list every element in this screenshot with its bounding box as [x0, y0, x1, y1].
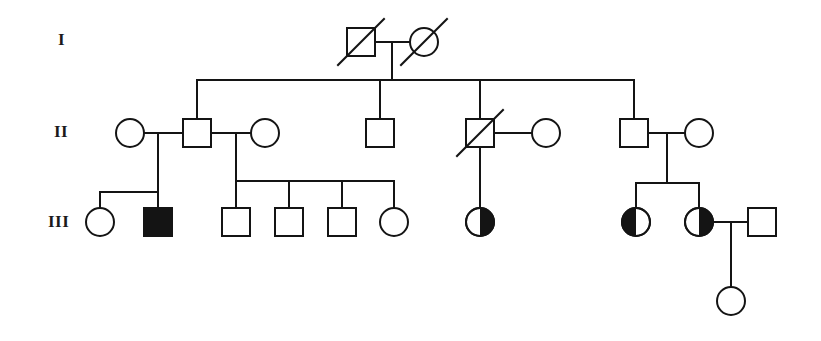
- union-union-II-d: [648, 133, 685, 183]
- pedigree-chart: IIIIII: [0, 0, 821, 341]
- individual-III-9-female-affected[interactable]: [685, 208, 713, 236]
- female-circle-II-6[interactable]: [532, 119, 560, 147]
- female-circle-II-8[interactable]: [685, 119, 713, 147]
- individual-III-1-female-unaffected[interactable]: [86, 208, 114, 236]
- individual-III-6-female-unaffected[interactable]: [380, 208, 408, 236]
- union-union-II-b: [211, 133, 251, 181]
- female-circle-III-6[interactable]: [380, 208, 408, 236]
- sibship-sibship-II-b-offspring: [236, 181, 394, 208]
- male-square-II-4[interactable]: [366, 119, 394, 147]
- gen-label-I: I: [58, 30, 65, 50]
- individual-III-8-female-affected[interactable]: [622, 208, 650, 236]
- individual-III-3-male-unaffected[interactable]: [222, 208, 250, 236]
- male-square-III-10[interactable]: [748, 208, 776, 236]
- male-square-II-2[interactable]: [183, 119, 211, 147]
- individual-III-4-male-unaffected[interactable]: [275, 208, 303, 236]
- union-union-II-a: [144, 133, 183, 192]
- male-square-III-5[interactable]: [328, 208, 356, 236]
- half-fill-half-right-III-9: [699, 208, 713, 236]
- individual-III-5-male-unaffected[interactable]: [328, 208, 356, 236]
- female-circle-II-3[interactable]: [251, 119, 279, 147]
- individual-symbols-layer: [86, 19, 776, 315]
- sibship-sibship-I-offspring: [197, 80, 634, 119]
- female-circle-II-1[interactable]: [116, 119, 144, 147]
- male-square-III-4[interactable]: [275, 208, 303, 236]
- individual-II-2-male-unaffected[interactable]: [183, 119, 211, 147]
- individual-II-3-female-unaffected[interactable]: [251, 119, 279, 147]
- gen-label-II: II: [54, 122, 68, 142]
- individual-II-8-female-unaffected[interactable]: [685, 119, 713, 147]
- individual-II-1-female-unaffected[interactable]: [116, 119, 144, 147]
- sibship-sibship-II-d-offspring: [636, 183, 699, 208]
- individual-IV-1-female-unaffected[interactable]: [717, 287, 745, 315]
- half-fill-half-left-III-8: [622, 208, 636, 236]
- individual-III-7-female-affected[interactable]: [466, 208, 494, 236]
- sibship-sibship-II-a-offspring: [100, 192, 158, 208]
- individual-II-4-male-unaffected[interactable]: [366, 119, 394, 147]
- male-square-III-3[interactable]: [222, 208, 250, 236]
- female-circle-III-1[interactable]: [86, 208, 114, 236]
- female-circle-IV-1[interactable]: [717, 287, 745, 315]
- male-square-III-2[interactable]: [144, 208, 172, 236]
- connector-lines-layer: [100, 42, 748, 287]
- half-fill-half-right-III-7: [480, 208, 494, 236]
- gen-label-III: III: [48, 212, 69, 232]
- pedigree-canvas: [0, 0, 821, 341]
- male-square-II-7[interactable]: [620, 119, 648, 147]
- individual-II-7-male-unaffected[interactable]: [620, 119, 648, 147]
- union-union-III-a: [713, 222, 748, 287]
- individual-II-6-female-unaffected[interactable]: [532, 119, 560, 147]
- individual-III-10-male-unaffected[interactable]: [748, 208, 776, 236]
- individual-III-2-male-affected[interactable]: [144, 208, 172, 236]
